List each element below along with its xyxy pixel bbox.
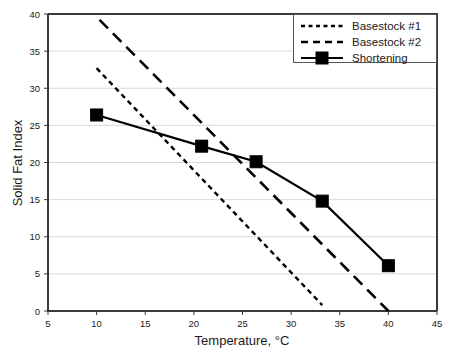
legend-swatch-marker [316, 52, 328, 64]
x-axis-title: Temperature, °C [195, 333, 290, 348]
chart-container: 51015202530354045 0510152025303540 Tempe… [0, 0, 451, 352]
data-point-marker [382, 260, 394, 272]
y-tick-label: 35 [29, 46, 40, 57]
x-tick-label: 30 [286, 318, 297, 329]
y-tick-label: 0 [35, 306, 40, 317]
y-tick-label: 40 [29, 9, 40, 20]
y-tick-label: 25 [29, 120, 40, 131]
y-tick-label: 20 [29, 157, 40, 168]
y-axis-title: Solid Fat Index [10, 119, 25, 206]
legend-item-label: Basestock #1 [352, 20, 421, 32]
x-tick-label: 5 [45, 318, 50, 329]
x-tick-label: 20 [189, 318, 200, 329]
data-point-marker [196, 140, 208, 152]
data-point-marker [316, 195, 328, 207]
y-tick-label: 10 [29, 231, 40, 242]
legend-item-label: Shortening [352, 52, 408, 64]
y-tick-label: 15 [29, 194, 40, 205]
data-point-marker [91, 109, 103, 121]
chart-legend[interactable]: Basestock #1Basestock #2Shortening [294, 15, 437, 65]
x-tick-label: 40 [383, 318, 394, 329]
solid-fat-index-chart: 51015202530354045 0510152025303540 Tempe… [0, 0, 451, 352]
y-tick-label: 30 [29, 83, 40, 94]
legend-item-shortening[interactable]: Shortening [301, 52, 408, 64]
x-tick-label: 15 [140, 318, 151, 329]
legend-item-label: Basestock #2 [352, 36, 421, 48]
x-tick-label: 25 [237, 318, 248, 329]
x-tick-label: 35 [334, 318, 345, 329]
y-tick-label: 5 [35, 268, 40, 279]
x-tick-label: 10 [91, 318, 102, 329]
x-tick-label: 45 [432, 318, 443, 329]
data-point-marker [250, 156, 262, 168]
